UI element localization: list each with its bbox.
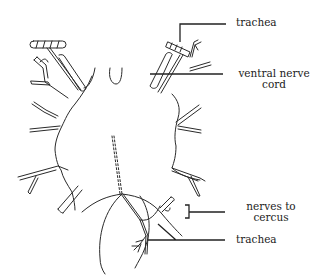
label-ventral-nerve-cord: ventral nerve cord bbox=[234, 68, 314, 90]
nerves-to-cercus-bracket bbox=[185, 205, 225, 218]
label-trachea-top: trachea bbox=[236, 17, 277, 28]
label-ventral-nerve-cord-line2: cord bbox=[234, 79, 314, 90]
label-nerves-to-cercus-line2: cercus bbox=[236, 212, 306, 223]
right-tracheal-branches bbox=[150, 40, 211, 196]
trachea-bottom-pointer bbox=[148, 224, 225, 240]
left-tracheal-branches bbox=[18, 41, 86, 213]
trachea-top-pointer bbox=[180, 24, 226, 42]
label-trachea-bottom: trachea bbox=[236, 234, 277, 245]
diagram: trachea ventral nerve cord nerves to cer… bbox=[0, 0, 315, 277]
label-nerves-to-cercus: nerves to cercus bbox=[236, 201, 306, 223]
body-outline bbox=[55, 76, 200, 274]
